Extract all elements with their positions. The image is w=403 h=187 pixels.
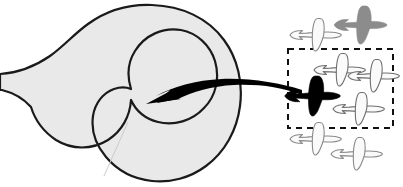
plane-selected-black[interactable] xyxy=(285,76,341,116)
planes-layer xyxy=(285,6,400,170)
diagram-root: Target region with aircraft cluster and … xyxy=(0,0,403,187)
plane-outside-bottom-right[interactable] xyxy=(331,138,382,170)
plane-inside-lower-right[interactable] xyxy=(333,93,384,125)
region-outer-shape xyxy=(0,5,241,182)
diagram-canvas: Target region with aircraft cluster and … xyxy=(0,0,403,187)
plane-outside-top-right-gray[interactable] xyxy=(334,6,387,44)
horseshoe-region xyxy=(0,5,241,182)
plane-outside-top-left[interactable] xyxy=(290,19,341,51)
plane-inside-upper-right[interactable] xyxy=(348,60,399,92)
